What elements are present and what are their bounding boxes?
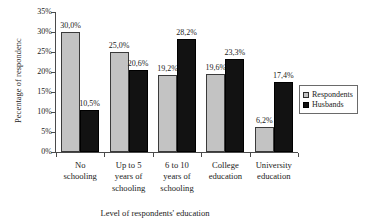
x-axis-title: Level of respondents' education — [0, 208, 310, 218]
bar-value-label: 10,5% — [72, 100, 107, 108]
y-axis-tick-label: 25% — [22, 48, 52, 56]
legend-swatch-icon-husbands — [303, 102, 309, 108]
bar-group: 19,2%28,2% — [153, 12, 201, 152]
bar-value-label: 23,3% — [217, 49, 252, 57]
y-axis-tick-mark — [51, 72, 55, 73]
y-axis-tick-label: 35% — [22, 8, 52, 16]
bar-respondents — [206, 74, 225, 152]
y-axis-tick-labels: 0%5%10%15%20%25%30%35% — [22, 0, 52, 224]
y-axis-tick-label: 20% — [22, 68, 52, 76]
y-axis-tick-mark — [51, 32, 55, 33]
bar-respondents — [255, 127, 274, 152]
bar-group: 30,0%10,5% — [56, 12, 104, 152]
bar-husbands — [129, 70, 148, 152]
bar-group: 25,0%20,6% — [104, 12, 152, 152]
y-axis-tick-label: 10% — [22, 108, 52, 116]
x-axis-category-label: Universityeducation — [244, 160, 304, 183]
bar-value-label: 17,4% — [266, 72, 301, 80]
y-axis-tick-mark — [51, 132, 55, 133]
bar-respondents — [61, 32, 80, 152]
bar-husbands — [80, 110, 99, 152]
y-axis-tick-mark — [51, 92, 55, 93]
y-axis-tick-mark — [51, 152, 55, 153]
bar-respondents — [158, 75, 177, 152]
x-axis-line — [55, 152, 298, 153]
bar-husbands — [225, 59, 244, 152]
x-axis-tick-mark — [56, 153, 57, 157]
bar-value-label: 28,2% — [169, 29, 204, 37]
legend-swatch-icon-respondents — [303, 92, 309, 98]
legend-item-respondents: Respondents — [303, 90, 353, 99]
y-axis-tick-label: 30% — [22, 28, 52, 36]
y-axis-tick-mark — [51, 12, 55, 13]
y-axis-tick-label: 0% — [22, 148, 52, 156]
y-axis-tick-mark — [51, 52, 55, 53]
bar-group: 6,2%17,4% — [250, 12, 298, 152]
legend-label-respondents: Respondents — [312, 90, 353, 99]
chart-legend: Respondents Husbands — [299, 85, 358, 114]
bar-value-label: 25,0% — [102, 42, 137, 50]
x-axis-tick-mark — [104, 153, 105, 157]
bar-group: 19,6%23,3% — [201, 12, 249, 152]
bar-husbands — [274, 82, 293, 152]
bar-value-label: 30,0% — [53, 22, 88, 30]
legend-label-husbands: Husbands — [312, 100, 344, 109]
x-axis-tick-mark — [250, 153, 251, 157]
bar-chart: Pecentage of respondenc 0%5%10%15%20%25%… — [0, 0, 373, 224]
y-axis-tick-label: 15% — [22, 88, 52, 96]
legend-item-husbands: Husbands — [303, 100, 353, 109]
plot-area: 30,0%10,5%25,0%20,6%19,2%28,2%19,6%23,3%… — [56, 12, 298, 152]
x-axis-tick-mark — [298, 153, 299, 157]
x-axis-tick-mark — [153, 153, 154, 157]
x-axis-tick-mark — [201, 153, 202, 157]
y-axis-tick-label: 5% — [22, 128, 52, 136]
y-axis-tick-mark — [51, 112, 55, 113]
bar-husbands — [177, 39, 196, 152]
